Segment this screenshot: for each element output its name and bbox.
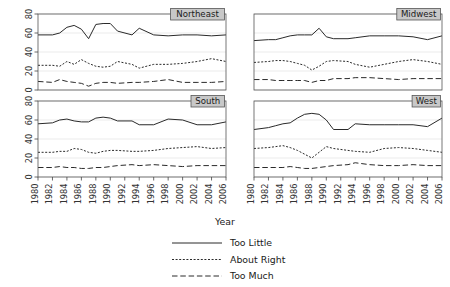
chart-figure: Northeast020406080MidwestSouth0204060801…	[0, 0, 450, 287]
y-tick-label: 0	[24, 174, 34, 179]
series-line-too-little	[38, 117, 226, 125]
x-tick-label: 1984	[59, 184, 69, 205]
x-tick-label: 2004	[420, 184, 430, 205]
x-tick-label: 1988	[88, 184, 98, 205]
x-tick-label: 1996	[362, 184, 372, 205]
series-line-about-right	[254, 60, 442, 70]
series-line-too-much	[38, 80, 226, 87]
panel-strip-label: West	[416, 96, 438, 106]
x-axis-title: Year	[214, 216, 235, 227]
panel-strip-label: South	[195, 96, 220, 106]
y-tick-label: 20	[24, 153, 34, 163]
x-tick-label: 2006	[218, 184, 228, 205]
x-tick-label: 1992	[333, 184, 343, 205]
series-line-too-much	[254, 163, 442, 169]
y-tick-label: 40	[24, 134, 34, 144]
y-tick-label: 40	[24, 47, 34, 57]
x-tick-label: 1996	[146, 184, 156, 205]
series-line-about-right	[38, 147, 226, 154]
x-tick-label: 1982	[260, 184, 270, 205]
legend: Too LittleAbout RightToo Much	[172, 237, 286, 281]
legend-label-too-little: Too Little	[229, 237, 272, 248]
x-tick-label: 1988	[304, 184, 314, 205]
series-line-too-little	[38, 24, 226, 39]
y-tick-label: 60	[24, 28, 34, 38]
series-line-too-much	[38, 165, 226, 169]
x-tick-label: 1994	[347, 184, 357, 205]
x-tick-label: 2002	[189, 184, 199, 205]
series-line-about-right	[38, 59, 226, 69]
x-tick-label: 1982	[44, 184, 54, 205]
x-tick-label: 1984	[275, 184, 285, 205]
x-tick-label: 1986	[73, 184, 83, 205]
x-tick-label: 1998	[376, 184, 386, 205]
x-tick-label: 1990	[102, 184, 112, 205]
panel-strip-label: Northeast	[176, 9, 219, 19]
x-tick-label: 2004	[204, 184, 214, 205]
x-tick-label: 1992	[117, 184, 127, 205]
x-tick-label: 1980	[246, 184, 256, 205]
legend-label-too-much: Too Much	[229, 270, 274, 281]
series-line-too-little	[254, 113, 442, 129]
panel-midwest: Midwest	[254, 9, 442, 91]
x-tick-label: 2002	[405, 184, 415, 205]
x-tick-label: 1994	[131, 184, 141, 205]
y-tick-label: 20	[24, 66, 34, 76]
x-tick-label: 1980	[30, 184, 40, 205]
y-tick-label: 0	[24, 87, 34, 92]
panel-west: West198019821984198619881990199219941996…	[246, 96, 444, 205]
chart-svg: Northeast020406080MidwestSouth0204060801…	[0, 0, 450, 287]
y-tick-label: 80	[24, 9, 34, 19]
panel-strip-label: Midwest	[401, 9, 437, 19]
panel-south: South02040608019801982198419861988199019…	[24, 96, 229, 205]
x-tick-label: 2006	[434, 184, 444, 205]
panel-northeast: Northeast020406080	[24, 9, 227, 93]
legend-label-about-right: About Right	[230, 254, 286, 265]
series-line-too-much	[254, 78, 442, 83]
x-tick-label: 2000	[175, 184, 185, 205]
x-tick-label: 1990	[318, 184, 328, 205]
x-tick-label: 1986	[289, 184, 299, 205]
series-line-too-little	[254, 28, 442, 40]
series-line-about-right	[254, 146, 442, 158]
x-tick-label: 1998	[160, 184, 170, 205]
x-tick-label: 2000	[391, 184, 401, 205]
y-tick-label: 80	[24, 96, 34, 106]
y-tick-label: 60	[24, 115, 34, 125]
